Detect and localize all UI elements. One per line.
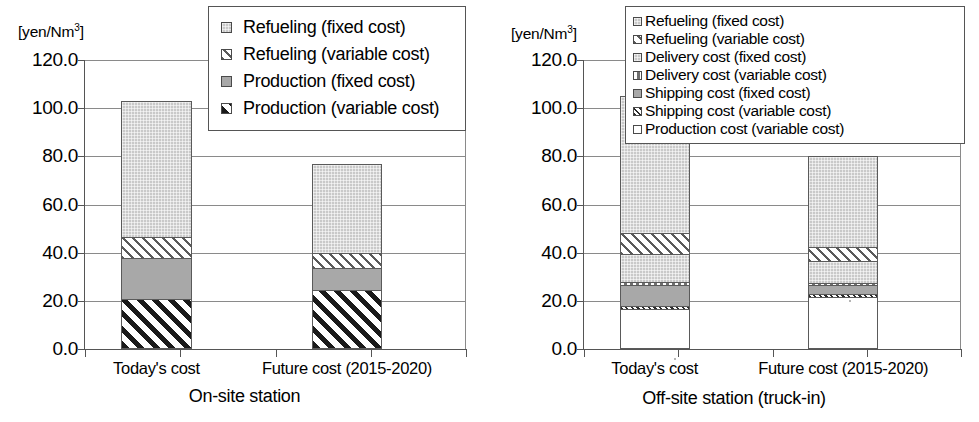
bar-segment[interactable]	[121, 299, 191, 349]
legend-item-label: Shipping cost (fixed cost)	[645, 84, 810, 102]
y-axis-tick-label: 40.0	[541, 241, 577, 263]
chart-title-on-site: On-site station	[0, 386, 489, 407]
legend-item-label: Production (variable cost)	[243, 98, 439, 119]
x-axis-tick	[961, 349, 962, 357]
y-axis-tick-label: 80.0	[42, 145, 78, 167]
legend-swatch-icon	[633, 53, 642, 62]
y-axis-tick-label: 120.0	[32, 49, 78, 71]
y-axis-tick	[78, 349, 85, 350]
bar-segment[interactable]	[808, 283, 878, 285]
y-axis-tick-label: 120.0	[531, 49, 577, 71]
bar-segment[interactable]	[121, 258, 191, 299]
y-axis-tick	[577, 156, 584, 157]
legend-item[interactable]: Refueling (fixed cost)	[221, 14, 455, 41]
y-axis-tick	[78, 301, 85, 302]
bar-segment[interactable]	[808, 297, 878, 349]
bar-segment[interactable]	[312, 253, 382, 269]
legend-item[interactable]: Refueling (fixed cost)	[633, 12, 958, 30]
legend-swatch-icon	[633, 125, 642, 134]
x-axis-tick	[678, 349, 679, 357]
y-axis-tick	[78, 60, 85, 61]
y-axis-tick	[78, 205, 85, 206]
legend-item-label: Refueling (fixed cost)	[645, 12, 784, 30]
y-axis-unit-label: [yen/Nm3]	[511, 24, 577, 43]
x-axis-tick	[180, 349, 181, 357]
bar-segment[interactable]	[808, 261, 878, 283]
bar-segment[interactable]	[808, 156, 878, 246]
legend-item-label: Refueling (fixed cost)	[243, 17, 405, 38]
legend-item[interactable]: Refueling (variable cost)	[633, 30, 958, 48]
bar-segment[interactable]	[620, 306, 690, 310]
x-axis-tick	[276, 349, 277, 357]
x-axis-tick	[371, 349, 372, 357]
legend-item-label: Delivery cost (variable cost)	[645, 66, 827, 84]
bar-segment[interactable]	[312, 268, 382, 290]
x-axis-tick	[85, 349, 86, 357]
y-axis-tick	[78, 108, 85, 109]
bar-segment[interactable]	[620, 282, 690, 285]
legend-swatch-icon	[633, 17, 642, 26]
x-axis-category-label: Today's cost	[113, 359, 200, 378]
x-axis-tick	[773, 349, 774, 357]
bar-segment[interactable]	[620, 309, 690, 349]
y-axis-tick-label: 100.0	[531, 97, 577, 119]
legend-item[interactable]: Production (variable cost)	[221, 95, 455, 122]
legend-item[interactable]: Delivery cost (fixed cost)	[633, 48, 958, 66]
chart-title-off-site: Off-site station (truck-in)	[489, 388, 979, 409]
legend-item[interactable]: Shipping cost (fixed cost)	[633, 84, 958, 102]
legend-off-site: Refueling (fixed cost)Refueling (variabl…	[625, 6, 965, 144]
y-axis-tick-label: 20.0	[42, 289, 78, 311]
legend-swatch-icon	[633, 71, 642, 80]
x-axis-tick	[867, 349, 868, 357]
x-axis-tick	[466, 349, 467, 357]
y-axis-tick	[577, 253, 584, 254]
x-axis-category-label: Today's cost	[611, 359, 698, 378]
y-axis-unit-label: [yen/Nm3]	[18, 22, 84, 41]
bar-segment[interactable]	[620, 285, 690, 305]
y-axis-tick	[577, 108, 584, 109]
legend-swatch-icon	[633, 89, 642, 98]
y-axis-tick-label: 60.0	[42, 193, 78, 215]
chart-panel-on-site-station: [yen/Nm3] 120.0100.080.060.040.020.00.0T…	[0, 0, 489, 422]
y-axis-tick	[78, 156, 85, 157]
y-axis-tick-label: 60.0	[541, 193, 577, 215]
bar-segment[interactable]	[620, 233, 690, 253]
legend-swatch-icon	[221, 103, 232, 114]
y-axis-tick-label: 0.0	[551, 338, 577, 360]
bar-stack[interactable]	[121, 60, 191, 349]
y-axis-tick-label: 40.0	[42, 241, 78, 263]
legend-swatch-icon	[221, 49, 232, 60]
scan-speck	[849, 300, 851, 302]
y-axis-tick-label: 80.0	[541, 145, 577, 167]
bar-segment[interactable]	[808, 247, 878, 261]
legend-item[interactable]: Refueling (variable cost)	[221, 41, 455, 68]
legend-item-label: Production (fixed cost)	[243, 71, 415, 92]
legend-item[interactable]: Production (fixed cost)	[221, 68, 455, 95]
legend-swatch-icon	[633, 35, 642, 44]
x-axis-tick	[584, 349, 585, 357]
legend-item-label: Production cost (variable cost)	[645, 120, 844, 138]
y-axis-tick	[577, 60, 584, 61]
legend-item[interactable]: Shipping cost (variable cost)	[633, 102, 958, 120]
legend-on-site: Refueling (fixed cost)Refueling (variabl…	[208, 6, 466, 131]
legend-swatch-icon	[221, 22, 232, 33]
legend-item[interactable]: Delivery cost (variable cost)	[633, 66, 958, 84]
bar-segment[interactable]	[620, 254, 690, 282]
y-axis-tick	[78, 253, 85, 254]
bar-segment[interactable]	[312, 164, 382, 253]
legend-swatch-icon	[221, 76, 232, 87]
legend-item-label: Refueling (variable cost)	[243, 44, 430, 65]
bar-segment[interactable]	[121, 237, 191, 258]
scan-speck	[674, 358, 676, 360]
legend-item[interactable]: Production cost (variable cost)	[633, 120, 958, 138]
x-axis-category-label: Future cost (2015-2020)	[262, 359, 432, 378]
y-axis-tick-label: 100.0	[32, 97, 78, 119]
y-axis-tick	[577, 205, 584, 206]
bar-segment[interactable]	[312, 290, 382, 349]
chart-panel-off-site-station: [yen/Nm3] 120.0100.080.060.040.020.00.0T…	[489, 0, 979, 422]
x-axis-category-label: Future cost (2015-2020)	[758, 359, 928, 378]
bar-segment[interactable]	[808, 285, 878, 293]
bar-segment[interactable]	[121, 101, 191, 237]
y-axis-tick	[577, 349, 584, 350]
bar-segment[interactable]	[808, 294, 878, 298]
